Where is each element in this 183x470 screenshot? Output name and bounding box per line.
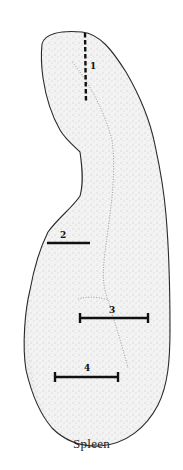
marker-4-label: 4 xyxy=(84,363,90,373)
marker-3-label: 3 xyxy=(109,305,115,315)
marker-2-label: 2 xyxy=(60,230,66,240)
figure-caption: Spleen xyxy=(0,436,183,452)
spleen-illustration: 1 2 3 4 xyxy=(0,0,183,470)
marker-1-label: 1 xyxy=(90,61,96,71)
